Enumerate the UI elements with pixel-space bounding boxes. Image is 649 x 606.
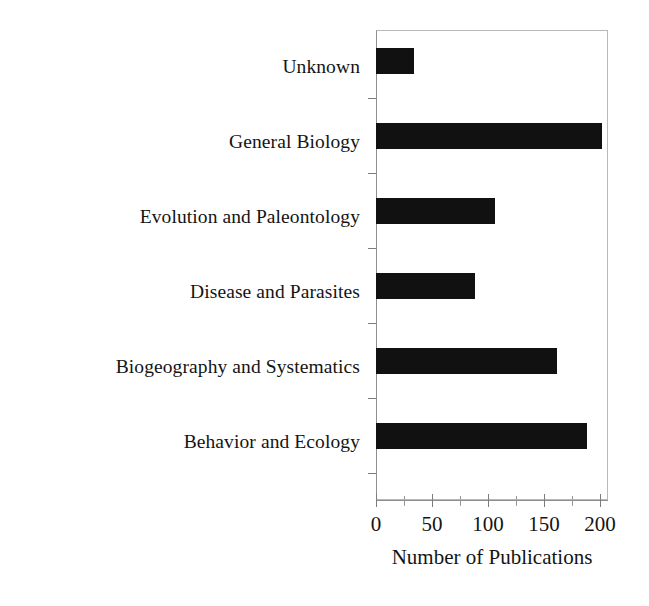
bar-disease-and-parasites — [376, 273, 475, 299]
bar-chart: Unknown General Biology Evolution and Pa… — [0, 0, 649, 606]
bar-behavior-and-ecology — [376, 423, 587, 449]
category-label-evolution-and-paleontology: Evolution and Paleontology — [0, 206, 368, 228]
category-label-biogeography-and-systematics: Biogeography and Systematics — [0, 356, 368, 378]
bar-general-biology — [376, 123, 602, 149]
x-axis-tick-label-0: 0 — [346, 512, 406, 536]
category-label-unknown: Unknown — [0, 56, 368, 78]
x-axis-tick-minor — [460, 496, 461, 506]
x-axis-tick-major — [544, 494, 545, 507]
x-axis-title: Number of Publications — [356, 545, 628, 569]
x-axis-tick-label-150: 150 — [514, 512, 574, 536]
x-axis-tick-major — [600, 494, 601, 507]
bar-unknown — [376, 48, 414, 74]
x-axis-tick-minor — [572, 496, 573, 506]
category-label-general-biology: General Biology — [0, 131, 368, 153]
x-axis-tick-minor — [516, 496, 517, 506]
x-axis-tick-label-100: 100 — [458, 512, 518, 536]
x-axis-tick-major — [432, 494, 433, 507]
category-label-behavior-and-ecology: Behavior and Ecology — [0, 431, 368, 453]
x-axis-tick-minor — [404, 496, 405, 506]
bar-evolution-and-paleontology — [376, 198, 495, 224]
category-label-disease-and-parasites: Disease and Parasites — [0, 281, 368, 303]
x-axis-tick-label-200: 200 — [570, 512, 630, 536]
x-axis-tick-label-50: 50 — [402, 512, 462, 536]
x-axis-tick-major — [488, 494, 489, 507]
x-axis-tick-major — [376, 494, 377, 507]
plot-area — [376, 30, 608, 500]
category-axis-labels: Unknown General Biology Evolution and Pa… — [0, 30, 368, 500]
bar-biogeography-and-systematics — [376, 348, 557, 374]
